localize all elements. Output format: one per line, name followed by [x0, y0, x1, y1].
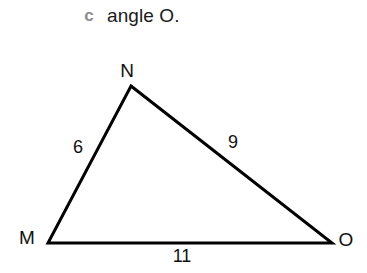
- vertex-label-n: N: [115, 60, 139, 82]
- vertex-label-o: O: [334, 229, 358, 251]
- side-length-label-mn: 6: [66, 136, 90, 158]
- triangle-figure: N M O 6 9 11: [0, 0, 367, 273]
- triangle-outline: [48, 86, 332, 243]
- side-length-label-mo: 11: [168, 245, 196, 267]
- triangle-shape-svg: [0, 0, 367, 273]
- page-canvas: c angle O. N M O 6 9 11: [0, 0, 367, 273]
- vertex-label-m: M: [14, 227, 40, 249]
- side-length-label-no: 9: [221, 131, 245, 153]
